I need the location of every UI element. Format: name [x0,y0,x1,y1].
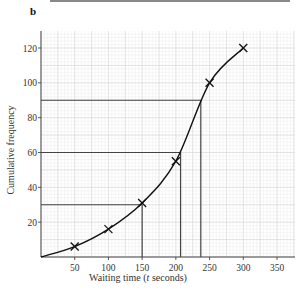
x-axis-label: Waiting time (t seconds) [89,272,187,284]
cumulative-frequency-chart: 5010015020025030035020406080100120 Waiti… [0,0,300,293]
x-tick-label: 50 [70,263,80,273]
y-tick-label: 80 [28,113,38,123]
x-tick-label: 250 [202,263,217,273]
y-tick-label: 100 [23,78,38,88]
x-tick-label: 350 [270,263,285,273]
minor-grid [41,31,295,257]
y-tick-label: 60 [28,148,38,158]
reading-lines [41,100,201,257]
y-tick-label: 120 [23,44,38,54]
y-tick-label: 20 [28,218,38,228]
tick-labels: 5010015020025030035020406080100120 [23,44,285,274]
y-axis-label: Cumulative frequency [5,105,16,194]
x-tick-label: 300 [236,263,251,273]
y-tick-label: 40 [28,183,38,193]
